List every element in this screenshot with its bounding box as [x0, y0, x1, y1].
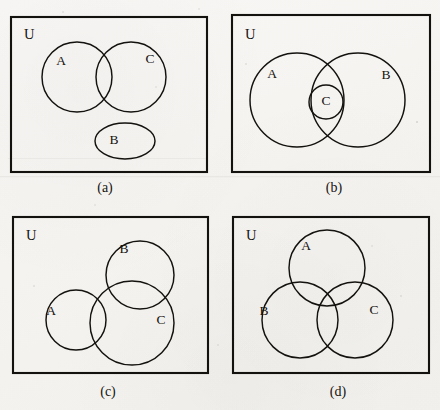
set-circle-a-C[interactable] [96, 42, 166, 112]
set-ellipse-a-B[interactable] [95, 123, 155, 159]
universe-rect-c [13, 217, 208, 373]
set-label-c-B: B [119, 241, 128, 256]
set-label-c-C: C [156, 312, 165, 327]
panel-caption-d: (d) [330, 384, 347, 400]
set-label-a-C: C [145, 51, 154, 66]
panel-b[interactable]: U A B C (b) [232, 15, 430, 196]
set-label-d-B: B [259, 303, 268, 318]
set-label-c-A: A [46, 303, 56, 318]
paper-speck [62, 11, 64, 13]
panel-caption-a: (a) [97, 180, 113, 196]
paper-speck [198, 8, 199, 9]
scan-streak [8, 158, 208, 159]
paper-speck [400, 295, 402, 297]
paper-speck [33, 285, 35, 287]
universe-rect-b [232, 15, 430, 172]
set-circle-a-A[interactable] [42, 42, 112, 112]
paper-speck [245, 63, 247, 65]
set-label-b-B: B [381, 67, 390, 82]
panel-caption-c: (c) [100, 384, 116, 400]
universe-label-a: U [24, 26, 35, 42]
set-label-a-A: A [56, 53, 66, 68]
paper-texture-layer [0, 8, 440, 345]
set-label-b-A: A [267, 66, 277, 81]
paper-speck [371, 245, 372, 246]
panel-c[interactable]: U B C A (c) [13, 217, 208, 400]
panel-d[interactable]: U A B C (d) [233, 217, 429, 400]
set-circle-d-B[interactable] [262, 282, 338, 358]
venn-figure-sheet: U A C B (a) U A B C (b) U B [0, 0, 440, 410]
paper-speck [217, 344, 218, 345]
universe-rect-a [11, 17, 207, 172]
set-label-d-C: C [369, 302, 378, 317]
universe-label-b: U [245, 26, 256, 42]
paper-speck [94, 204, 95, 205]
set-circle-c-A[interactable] [46, 290, 106, 350]
scan-streak [0, 176, 440, 177]
set-label-b-C: C [321, 93, 330, 108]
set-label-a-B: B [109, 132, 118, 147]
venn-figure-canvas: U A C B (a) U A B C (b) U B [0, 0, 440, 410]
paper-speck [155, 86, 156, 87]
paper-speck [416, 121, 418, 123]
universe-label-d: U [246, 227, 257, 243]
universe-label-c: U [26, 227, 37, 243]
panel-a[interactable]: U A C B (a) [11, 17, 207, 196]
panel-caption-b: (b) [326, 180, 343, 196]
set-label-d-A: A [301, 238, 311, 253]
set-circle-c-B[interactable] [106, 241, 174, 309]
